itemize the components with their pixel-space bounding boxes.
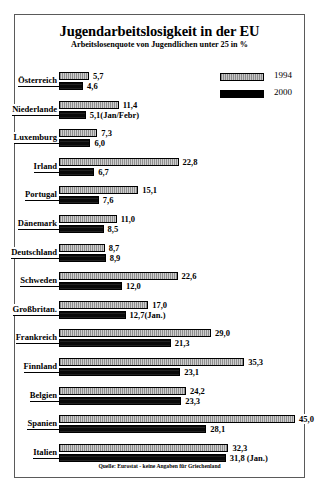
- bar-value-1994: 32,3: [230, 443, 247, 453]
- bar-value-2000: 8,9: [108, 253, 121, 263]
- bar-1994: [59, 129, 97, 137]
- chart-row: 8,78,9Deutschland: [15, 244, 304, 264]
- bar-value-1994: 17,0: [150, 300, 167, 310]
- bar-1994: [59, 101, 119, 109]
- chart-frame: Jugendarbeitslosigkeit in der EU Arbeits…: [14, 14, 305, 478]
- bar-1994: [59, 444, 228, 452]
- bar-value-1994: 8,7: [107, 243, 120, 253]
- bar-value-2000: 8,5: [106, 224, 119, 234]
- chart-row: 29,021,3Frankreich: [15, 329, 304, 349]
- bar-value-2000: 4,6: [85, 81, 98, 91]
- chart-row: 5,74,6Österreich: [15, 72, 304, 92]
- category-label: Frankreich: [16, 332, 59, 344]
- category-label: Dänemark: [18, 218, 59, 230]
- category-label: Schweden: [20, 275, 59, 287]
- bar-2000: [59, 311, 126, 319]
- category-label: Österreich: [18, 75, 59, 87]
- bar-2000: [59, 82, 83, 90]
- bar-value-1994: 22,8: [181, 157, 198, 167]
- bar-value-1994: 11,0: [119, 214, 135, 224]
- bar-2000: [59, 425, 206, 433]
- category-label: Portugal: [25, 189, 59, 201]
- bar-value-1994: 5,7: [91, 71, 104, 81]
- chart-row: 7,36,0Luxemburg: [15, 129, 304, 149]
- bar-1994: [59, 186, 138, 194]
- chart-row: 22,86,7Irland: [15, 158, 304, 178]
- bar-1994: [59, 272, 178, 280]
- bar-2000: [59, 339, 171, 347]
- category-label: Großbritan.: [13, 304, 60, 316]
- chart-row: 35,323,1Finnland: [15, 358, 304, 378]
- bar-value-2000: 28,1: [208, 424, 225, 434]
- bar-2000: [59, 368, 180, 376]
- bar-1994: [59, 387, 186, 395]
- bar-1994: [59, 358, 244, 366]
- bar-1994: [59, 329, 211, 337]
- bar-value-2000: 12,0: [124, 281, 141, 291]
- bar-2000: [59, 168, 94, 176]
- bar-value-1994: 24,2: [188, 386, 205, 396]
- category-label: Italien: [33, 447, 59, 459]
- category-label: Belgien: [30, 390, 59, 402]
- category-label: Spanien: [27, 418, 59, 430]
- chart-row: 11,45,1(Jan/Febr)Niederlande: [15, 101, 304, 121]
- chart-row: 24,223,3Belgien: [15, 387, 304, 407]
- bar-value-2000: 23,3: [183, 396, 200, 406]
- bar-2000: [59, 454, 226, 462]
- category-label: Niederlande: [12, 104, 59, 116]
- bar-2000: [59, 139, 90, 147]
- bar-value-1994: 35,3: [246, 357, 263, 367]
- category-label: Finnland: [24, 361, 59, 373]
- bar-value-2000: 23,1: [182, 367, 199, 377]
- chart-row: 11,08,5Dänemark: [15, 215, 304, 235]
- chart-row: 32,331,8 (Jan.)Italien: [15, 444, 304, 464]
- bar-1994: [59, 301, 148, 309]
- bar-1994: [59, 72, 89, 80]
- chart-plot-area: 5,74,6Österreich11,45,1(Jan/Febr)Niederl…: [15, 15, 304, 477]
- bar-1994: [59, 158, 179, 166]
- category-label: Irland: [34, 161, 59, 173]
- bar-2000: [59, 111, 86, 119]
- bar-2000: [59, 225, 104, 233]
- chart-source-note: Quelle: Eurostat - keine Angaben für Gri…: [15, 463, 304, 469]
- bar-value-2000: 12,7(Jan.): [128, 310, 166, 320]
- bar-value-1994: 15,1: [140, 185, 157, 195]
- bar-value-1994: 29,0: [213, 328, 230, 338]
- bar-1994: [59, 415, 295, 423]
- bar-value-2000: 5,1(Jan/Febr): [88, 110, 139, 120]
- bar-value-1994: 45,0: [297, 414, 314, 424]
- bar-value-2000: 6,7: [96, 167, 109, 177]
- bar-value-2000: 6,0: [92, 138, 105, 148]
- chart-row: 17,012,7(Jan.)Großbritan.: [15, 301, 304, 321]
- category-label: Luxemburg: [14, 132, 59, 144]
- bar-value-2000: 21,3: [173, 338, 190, 348]
- bar-1994: [59, 244, 105, 252]
- bar-2000: [59, 282, 122, 290]
- bar-value-1994: 7,3: [99, 128, 112, 138]
- bar-2000: [59, 196, 99, 204]
- chart-row: 45,028,1Spanien: [15, 415, 304, 435]
- bar-value-1994: 22,6: [180, 271, 197, 281]
- category-label: Deutschland: [11, 247, 59, 259]
- chart-row: 22,612,0Schweden: [15, 272, 304, 292]
- bar-2000: [59, 254, 106, 262]
- bar-value-2000: 7,6: [101, 195, 114, 205]
- chart-row: 15,17,6Portugal: [15, 186, 304, 206]
- bar-value-1994: 11,4: [121, 100, 137, 110]
- bar-value-2000: 31,8 (Jan.): [228, 453, 268, 463]
- bar-2000: [59, 397, 181, 405]
- bar-1994: [59, 215, 117, 223]
